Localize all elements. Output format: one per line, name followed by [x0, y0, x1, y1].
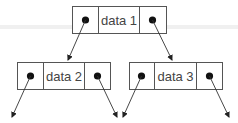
tree-node-1: data 1 — [73, 7, 167, 34]
tree-diagram: data 1 data 2 data 3 — [0, 0, 238, 123]
tree-node-3: data 3 — [130, 63, 223, 90]
node-label: data 3 — [157, 69, 193, 84]
tree-node-2: data 2 — [18, 63, 111, 90]
node-label: data 2 — [46, 69, 82, 84]
node-label: data 1 — [101, 13, 137, 28]
